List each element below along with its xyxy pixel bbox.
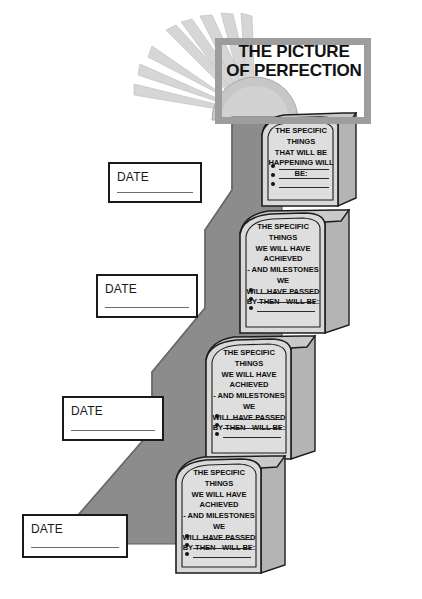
step-block-4[interactable] bbox=[176, 456, 285, 573]
date-label-2: DATE bbox=[105, 282, 137, 296]
date-input-1[interactable] bbox=[117, 192, 193, 193]
date-input-3[interactable] bbox=[71, 430, 155, 431]
date-label-4: DATE bbox=[31, 522, 63, 536]
date-box-4[interactable]: DATE bbox=[22, 514, 128, 558]
date-box-1[interactable]: DATE bbox=[108, 162, 202, 203]
step-block-2[interactable] bbox=[240, 210, 349, 333]
poster-canvas: THE PICTURE OF PERFECTION DATE DATE DATE… bbox=[0, 0, 422, 599]
step-block-1[interactable] bbox=[262, 113, 356, 206]
step-block-3[interactable] bbox=[206, 336, 315, 459]
title-frame bbox=[215, 38, 371, 124]
date-label-3: DATE bbox=[71, 404, 103, 418]
date-input-2[interactable] bbox=[105, 307, 189, 308]
date-label-1: DATE bbox=[117, 170, 149, 184]
date-box-2[interactable]: DATE bbox=[96, 274, 198, 318]
date-box-3[interactable]: DATE bbox=[62, 396, 164, 441]
date-input-4[interactable] bbox=[31, 547, 119, 548]
